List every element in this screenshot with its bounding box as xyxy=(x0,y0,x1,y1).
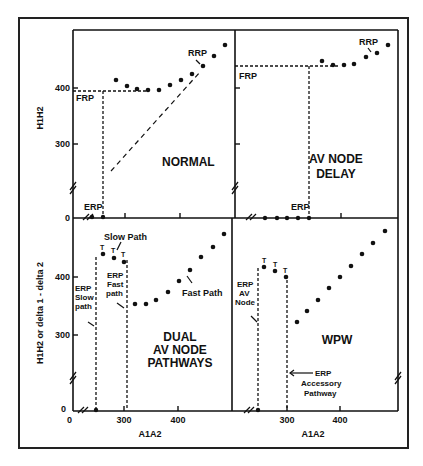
erp-av-1: ERP xyxy=(237,280,254,289)
avdelay-title-1: AV NODE xyxy=(309,152,363,166)
panel-normal: FRP RRP ERP NORMAL xyxy=(73,43,227,220)
erp-slow-1: ERP xyxy=(75,284,92,293)
dual-title-2: AV NODE xyxy=(153,343,207,357)
ytick-top-0: 0 xyxy=(65,213,70,223)
avdelay-rrp-label: RRP xyxy=(359,37,378,47)
xtick-0: 0 xyxy=(67,415,72,425)
y-axis-label-bottom: H1H2 or delta 1 - delta 2 xyxy=(35,262,45,364)
figure-svg: FRP RRP ERP NORMAL FRP RRP ERP AV NODE D… xyxy=(0,0,423,466)
svg-text:T: T xyxy=(262,257,267,264)
svg-text:T: T xyxy=(111,247,116,254)
ytick-bot-400: 400 xyxy=(55,272,70,282)
xtick-400: 400 xyxy=(170,415,185,425)
ytick-bot-0: 0 xyxy=(61,404,66,414)
fast-path-label: Fast Path xyxy=(182,288,223,298)
y-axis-label-top: H1H2 xyxy=(35,106,45,129)
normal-rrp-label: RRP xyxy=(188,48,207,58)
dual-title-1: DUAL xyxy=(163,330,196,344)
avdelay-title-2: DELAY xyxy=(316,167,356,181)
erp-acc-3: Pathway xyxy=(304,389,337,398)
ytick-top-400: 400 xyxy=(55,83,70,93)
xtick-300: 300 xyxy=(116,415,131,425)
erp-slow-2: Slow xyxy=(75,293,94,302)
erp-fast-2: Fast xyxy=(107,280,124,289)
panel-av-node-delay: FRP RRP ERP AV NODE DELAY xyxy=(235,37,390,220)
panel-wpw: TTT ERP AV Node ERP Accessory Pathway WP… xyxy=(235,229,387,412)
wpw-title: WPW xyxy=(322,333,353,347)
svg-text:T: T xyxy=(283,267,288,274)
erp-av-3: Node xyxy=(235,298,256,307)
erp-acc-2: Accessory xyxy=(301,379,342,388)
avdelay-frp-label: FRP xyxy=(239,71,257,81)
x-axis-label-left: A1A2 xyxy=(138,429,161,439)
avdelay-erp-label: ERP xyxy=(291,202,310,212)
svg-text:T: T xyxy=(100,244,105,251)
svg-text:T: T xyxy=(273,261,278,268)
erp-slow-3: path xyxy=(75,302,92,311)
svg-text:T: T xyxy=(121,251,126,258)
erp-av-2: AV xyxy=(239,289,250,298)
ytick-bot-300: 300 xyxy=(55,330,70,340)
ytick-top-300: 300 xyxy=(55,139,70,149)
x-axis-label-right: A1A2 xyxy=(301,429,324,439)
erp-acc-1: ERP xyxy=(315,369,332,378)
erp-fast-3: path xyxy=(106,289,123,298)
dual-title-3: PATHWAYS xyxy=(147,356,212,370)
slow-path-label: Slow Path xyxy=(104,232,147,242)
panel-dual: TTT Slow Path Fast Path ERP Fast path ER… xyxy=(75,232,226,412)
xtick-wpw-400: 400 xyxy=(332,415,347,425)
xtick-wpw-300: 300 xyxy=(279,415,294,425)
normal-title: NORMAL xyxy=(162,155,215,169)
normal-erp-label: ERP xyxy=(84,202,103,212)
erp-fast-1: ERP xyxy=(107,271,124,280)
normal-frp-label: FRP xyxy=(76,93,94,103)
